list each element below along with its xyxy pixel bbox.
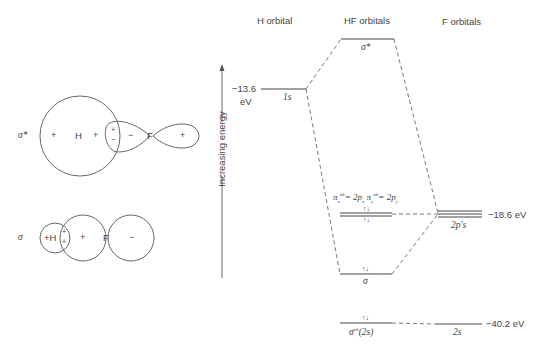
f-2p-energy: −18.6 eV bbox=[488, 210, 526, 220]
sigma-star-sign-6: + bbox=[180, 131, 185, 140]
pi-y-electron-pair: ↑↓ bbox=[363, 216, 370, 223]
header-f-orbitals: F orbitals bbox=[442, 17, 481, 27]
f-2p-label: 2p's bbox=[451, 221, 466, 231]
sigma-star-picture-label: σ* bbox=[18, 131, 27, 141]
pi-x-electron-pair: ↑↓ bbox=[363, 205, 370, 212]
sigma-star-level-label: σ* bbox=[361, 43, 370, 53]
sigma-star-sign-2: + bbox=[93, 131, 98, 140]
sigma-sign-2: + bbox=[62, 238, 66, 245]
sigma-nb-electron-pair: ↑↓ bbox=[362, 314, 369, 321]
sigma-star-f-right-lobe bbox=[153, 124, 199, 148]
sigma-nb-level-label: σnb(2s) bbox=[349, 327, 373, 338]
h-1s-label: 1s bbox=[283, 93, 291, 103]
f-2s-label: 2s bbox=[453, 328, 461, 338]
pi-nb-label: πxnb= 2px πynb= 2py bbox=[333, 192, 398, 204]
sigma-star-h-label: H bbox=[75, 131, 82, 141]
sigma-star-sign-3: + bbox=[111, 126, 115, 133]
sigma-h-label: +H bbox=[44, 233, 56, 243]
header-hf-orbitals: HF orbitals bbox=[344, 16, 390, 26]
sigma-star-sign-1: + bbox=[51, 131, 56, 140]
energy-arrow-head bbox=[220, 64, 225, 71]
sigma-star-sign-5: − bbox=[128, 131, 133, 140]
sigma-f-label: F bbox=[103, 233, 109, 243]
sigma-electron-pair: ↑↓ bbox=[362, 265, 369, 272]
sigma-sign-3: + bbox=[80, 233, 85, 242]
sigma-sign-1: + bbox=[62, 228, 66, 235]
sigma-picture-label: σ bbox=[18, 233, 23, 243]
header-h-orbital: H orbital bbox=[257, 16, 292, 26]
sigma-level-label: σ bbox=[363, 277, 368, 287]
energy-axis-label: Increasing energy bbox=[217, 109, 227, 189]
h-1s-energy-unit: eV bbox=[240, 97, 252, 107]
h-1s-energy: −13.6 bbox=[232, 84, 256, 94]
sigma-star-sign-4: − bbox=[111, 136, 115, 143]
f-2s-energy: −40.2 eV bbox=[486, 319, 524, 329]
sigma-sign-4: − bbox=[129, 233, 134, 242]
mo-diagram-lines bbox=[0, 0, 544, 352]
sigma-star-f-label: F bbox=[147, 131, 153, 141]
